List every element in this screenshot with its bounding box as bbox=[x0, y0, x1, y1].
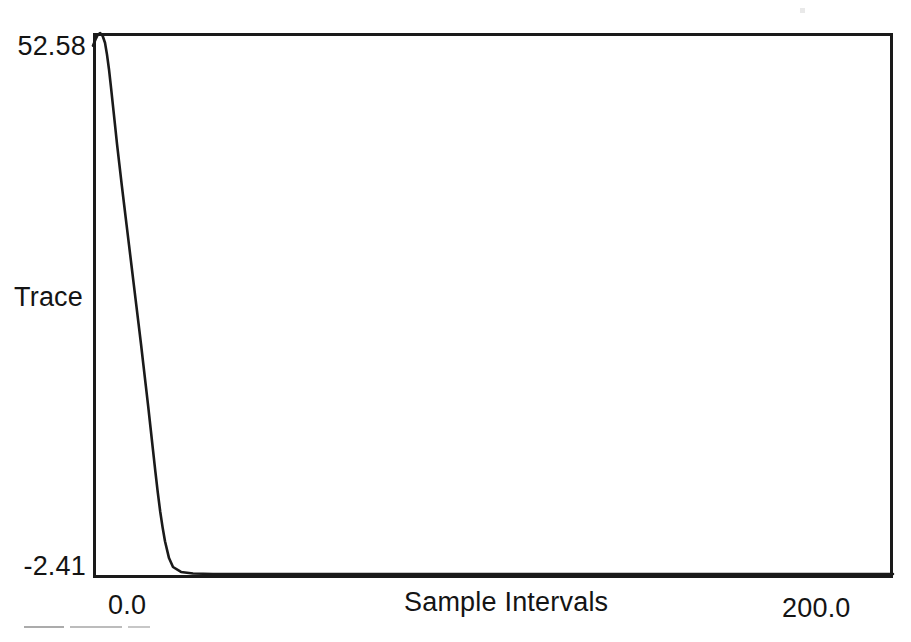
x-axis-title: Sample Intervals bbox=[404, 589, 608, 616]
trace-line-series bbox=[93, 33, 893, 574]
figure-canvas: 52.58 -2.41 Trace 0.0 Sample Intervals 2… bbox=[0, 0, 911, 642]
y-axis-title: Trace bbox=[14, 284, 83, 311]
scan-artifact-dash bbox=[24, 626, 64, 628]
scan-artifact-dash bbox=[70, 626, 122, 628]
scan-artifact-speck bbox=[800, 8, 805, 13]
scan-artifact-dash bbox=[128, 626, 150, 628]
y-axis-min-tick-label: -2.41 bbox=[23, 553, 86, 580]
x-axis-min-tick-label: 0.0 bbox=[108, 592, 146, 619]
x-axis-max-tick-label: 200.0 bbox=[782, 595, 851, 622]
plot-area bbox=[93, 33, 893, 578]
y-axis-max-tick-label: 52.58 bbox=[17, 33, 86, 60]
